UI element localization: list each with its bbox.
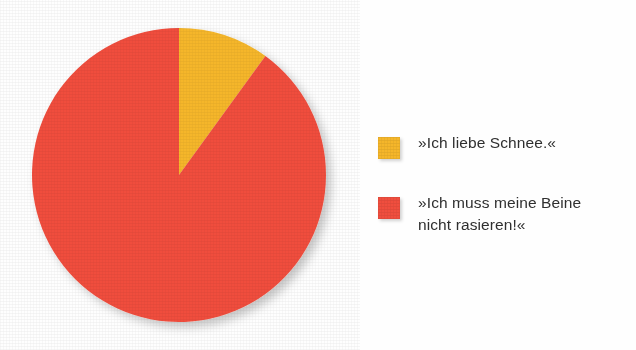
pie-slices-group bbox=[32, 28, 326, 322]
legend-label-ich-muss-meine-beine: »Ich muss meine Beine nicht rasieren!« bbox=[418, 192, 581, 236]
pie-slice-ich-muss-meine-beine[interactable] bbox=[32, 28, 326, 322]
legend-swatch-yellow-icon bbox=[378, 137, 400, 159]
legend-label-ich-liebe-schnee: »Ich liebe Schnee.« bbox=[418, 132, 556, 154]
pie-chart-figure: »Ich liebe Schnee.« »Ich muss meine Bein… bbox=[0, 0, 636, 350]
legend-swatch-red-icon bbox=[378, 197, 400, 219]
legend-item-ich-liebe-schnee[interactable]: »Ich liebe Schnee.« bbox=[378, 132, 628, 159]
pie-chart-svg bbox=[0, 0, 360, 350]
chart-legend: »Ich liebe Schnee.« »Ich muss meine Bein… bbox=[378, 132, 628, 269]
legend-item-ich-muss-meine-beine[interactable]: »Ich muss meine Beine nicht rasieren!« bbox=[378, 192, 628, 236]
pie-chart-area bbox=[0, 0, 360, 350]
